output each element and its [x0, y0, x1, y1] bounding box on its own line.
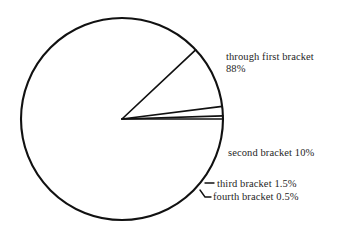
- slice-label-third-bracket-text: third bracket 1.5%: [217, 178, 297, 190]
- slice-label-first-bracket: through first bracket 88%: [226, 51, 314, 74]
- slice-label-third-bracket: third bracket 1.5%: [217, 178, 297, 190]
- slice-label-second-bracket-text: second bracket 10%: [228, 147, 314, 159]
- slice-label-fourth-bracket: fourth bracket 0.5%: [213, 191, 299, 203]
- leader-line-fourth-bracket: [200, 190, 211, 197]
- pie-chart: through first bracket 88% second bracket…: [0, 0, 343, 238]
- slice-label-first-bracket-name: through first bracket: [226, 51, 314, 63]
- slice-label-second-bracket: second bracket 10%: [228, 147, 314, 159]
- slice-label-fourth-bracket-text: fourth bracket 0.5%: [213, 191, 299, 203]
- slice-label-first-bracket-value: 88%: [226, 63, 314, 75]
